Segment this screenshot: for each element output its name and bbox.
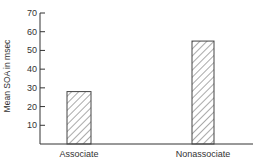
bars	[67, 41, 214, 144]
y-axis: 10203040506070	[27, 8, 45, 144]
x-tick-labels: AssociateNonassociate	[59, 149, 230, 159]
y-tick-label: 40	[27, 64, 37, 74]
bar-associate	[67, 92, 91, 144]
y-tick-label: 70	[27, 8, 37, 18]
x-tick-label: Associate	[59, 149, 98, 159]
y-tick-label: 20	[27, 102, 37, 112]
y-tick-label: 50	[27, 45, 37, 55]
bar-chart: 10203040506070 AssociateNonassociate	[0, 0, 257, 168]
y-tick-label: 30	[27, 83, 37, 93]
y-tick-label: 10	[27, 120, 37, 130]
y-tick-label: 60	[27, 27, 37, 37]
x-tick-label: Nonassociate	[176, 149, 231, 159]
bar-nonassociate	[192, 41, 214, 144]
